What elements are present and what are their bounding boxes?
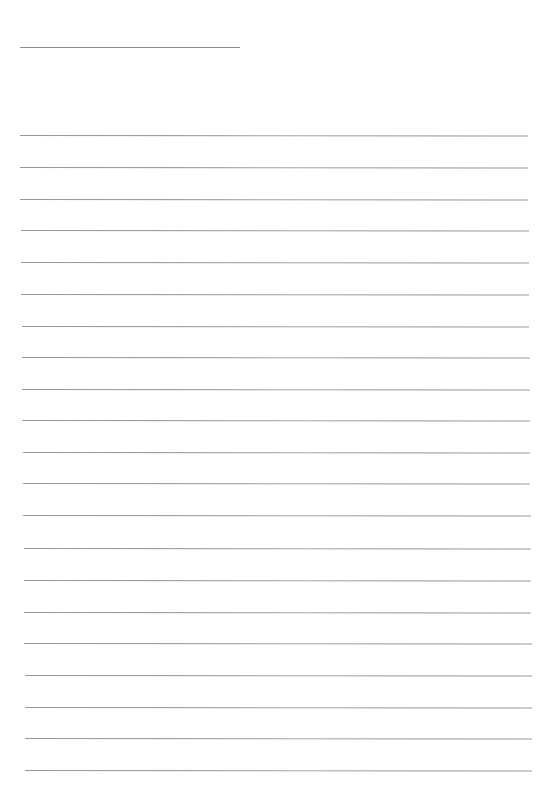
ruled-line bbox=[22, 389, 530, 391]
ruled-line bbox=[21, 230, 529, 232]
ruled-line bbox=[22, 420, 530, 422]
ruled-line bbox=[25, 707, 532, 709]
ruled-lines bbox=[0, 0, 546, 804]
ruled-line bbox=[23, 483, 530, 485]
ruled-line bbox=[20, 199, 528, 201]
ruled-line bbox=[22, 357, 530, 359]
ruled-line bbox=[20, 135, 528, 137]
ruled-line bbox=[25, 738, 532, 740]
ruled-line bbox=[24, 612, 531, 614]
ruled-line bbox=[21, 262, 529, 264]
lined-paper-page bbox=[0, 0, 546, 804]
ruled-line bbox=[23, 452, 530, 454]
ruled-line bbox=[24, 643, 532, 645]
ruled-line bbox=[24, 548, 531, 550]
ruled-line bbox=[25, 770, 532, 772]
ruled-line bbox=[22, 326, 529, 328]
ruled-line bbox=[20, 167, 528, 169]
ruled-line bbox=[23, 515, 531, 517]
ruled-line bbox=[21, 294, 529, 296]
ruled-line bbox=[24, 580, 531, 582]
ruled-line bbox=[25, 675, 532, 677]
